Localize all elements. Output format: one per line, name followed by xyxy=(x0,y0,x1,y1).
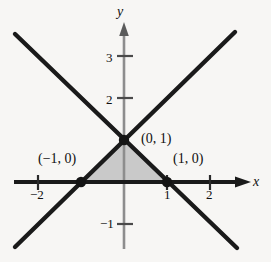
x-axis-arrowhead xyxy=(235,176,251,187)
x-tick-label-minus2: −2 xyxy=(30,188,44,201)
x-tick-label-1: 1 xyxy=(164,188,171,201)
y-axis-arrowhead xyxy=(119,22,129,36)
point-marker-1-0 xyxy=(162,177,172,187)
x-axis-name: x xyxy=(253,175,259,189)
y-tick-label-minus1: −1 xyxy=(100,217,114,230)
y-tick-label-2: 2 xyxy=(106,93,113,106)
point-label-1-0: (1, 0) xyxy=(173,152,203,166)
point-marker-0-1 xyxy=(119,135,129,145)
point-label-minus1-0: (−1, 0) xyxy=(38,152,76,166)
point-marker-minus1-0 xyxy=(76,177,86,187)
y-axis-name: y xyxy=(117,5,123,19)
plot-canvas xyxy=(0,0,271,262)
y-tick-label-3: 3 xyxy=(106,51,113,64)
x-tick-label-2: 2 xyxy=(206,188,213,201)
point-label-0-1: (0, 1) xyxy=(141,132,171,146)
graph-figure: −2 1 2 3 2 −1 x y (0, 1) (−1, 0) (1, 0) xyxy=(0,0,271,262)
